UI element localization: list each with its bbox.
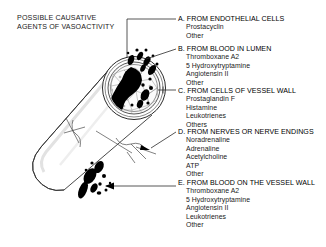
legend-block-e: E. FROM BLOOD ON THE VESSEL WALL Thrombo… — [178, 179, 326, 229]
legend-item: Prostacyclin — [178, 23, 326, 31]
legend-item: Other — [178, 79, 326, 87]
legend-items-a: Prostacyclin Other — [178, 23, 326, 40]
legend-item: Adrenaline — [178, 145, 326, 153]
legend-item: Leukotrienes — [178, 213, 326, 221]
legend-block-c: C. FROM CELLS OF VESSEL WALL Prostagland… — [178, 87, 326, 129]
figure-page: POSSIBLE CAUSATIVE AGENTS OF VASOACTIVIT… — [0, 0, 326, 247]
legend-item: Thromboxane A2 — [178, 53, 326, 61]
legend-block-d: D. FROM NERVES OR NERVE ENDINGS Noradren… — [178, 128, 326, 178]
legend-items-d: Noradrenaline Adrenaline Acetylcholine A… — [178, 136, 326, 178]
legend-item: 5 Hydroxytryptamine — [178, 196, 326, 204]
legend-item: Other — [178, 221, 326, 229]
legend-item: Leukotrienes — [178, 112, 326, 120]
legend-item: Acetylcholine — [178, 153, 326, 161]
legend-item: Angiotensin II — [178, 70, 326, 78]
legend-heading-e: E. FROM BLOOD ON THE VESSEL WALL — [178, 179, 326, 187]
nerve-arrowhead — [140, 145, 150, 150]
vessel-cross-section — [103, 48, 166, 119]
legend-heading-d: D. FROM NERVES OR NERVE ENDINGS — [178, 128, 326, 136]
legend-item: Thromboxane A2 — [178, 187, 326, 195]
legend-heading-c: C. FROM CELLS OF VESSEL WALL — [178, 87, 326, 95]
legend-items-b: Thromboxane A2 5 Hydroxytryptamine Angio… — [178, 53, 326, 87]
legend-block-b: B. FROM BLOOD IN LUMEN Thromboxane A2 5 … — [178, 45, 326, 87]
legend-item: Prostaglandin F — [178, 95, 326, 103]
legend-item: 5 Hydroxytryptamine — [178, 62, 326, 70]
legend-block-a: A. FROM ENDOTHELIAL CELLS Prostacyclin O… — [178, 15, 326, 40]
leader-line-a — [127, 19, 176, 58]
legend-item: ATP — [178, 162, 326, 170]
leader-line-b — [146, 49, 176, 59]
legend-item: Other — [178, 170, 326, 178]
legend-item: Histamine — [178, 104, 326, 112]
legend-item: Angiotensin II — [178, 204, 326, 212]
legend-heading-b: B. FROM BLOOD IN LUMEN — [178, 45, 326, 53]
legend-heading-a: A. FROM ENDOTHELIAL CELLS — [178, 15, 326, 23]
legend-item: Noradrenaline — [178, 136, 326, 144]
legend-items-e: Thromboxane A2 5 Hydroxytryptamine Angio… — [178, 187, 326, 229]
legend-items-c: Prostaglandin F Histamine Leukotrienes O… — [178, 95, 326, 129]
leader-line-d — [151, 132, 176, 148]
legend-item: Other — [178, 32, 326, 40]
